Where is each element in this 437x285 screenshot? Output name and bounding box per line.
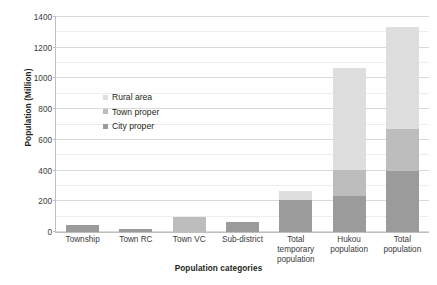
y-axis-tick-label: 0 bbox=[18, 228, 52, 237]
legend-swatch-icon bbox=[103, 109, 108, 114]
bar-segment-city-proper bbox=[226, 222, 259, 232]
chart-legend: Rural areaTown properCity proper bbox=[103, 92, 159, 131]
bar-segment-town-proper bbox=[333, 170, 366, 196]
population-bar-chart: Population (Million) 0200400600800100012… bbox=[0, 0, 437, 285]
x-axis-tick-label: Sub-district bbox=[216, 235, 269, 245]
y-axis-tick-label: 1200 bbox=[18, 43, 52, 52]
legend-swatch-icon bbox=[103, 95, 108, 100]
gridline-minor bbox=[56, 216, 429, 217]
bar-hukou-population[interactable] bbox=[333, 68, 366, 232]
gridline-minor bbox=[56, 185, 429, 186]
bar-segment-rural-area bbox=[279, 191, 312, 199]
x-axis-tick-label: Town VC bbox=[163, 235, 216, 245]
x-axis-tick-label-line: population bbox=[376, 245, 429, 255]
bar-total-temporary-population[interactable] bbox=[279, 191, 312, 232]
y-axis-tick-label: 1000 bbox=[18, 74, 52, 83]
gridline-major bbox=[56, 200, 429, 201]
bar-segment-rural-area bbox=[386, 27, 419, 129]
gridline-major bbox=[56, 47, 429, 48]
y-axis-tick-label: 1400 bbox=[18, 13, 52, 22]
y-axis-tick-label: 800 bbox=[18, 105, 52, 114]
x-axis-line bbox=[55, 232, 429, 233]
y-axis-tick bbox=[53, 77, 56, 78]
bar-segment-city-proper bbox=[333, 196, 366, 232]
x-axis-tick-label: Totalpopulation bbox=[376, 235, 429, 255]
bar-segment-town-proper bbox=[386, 129, 419, 170]
gridline-major bbox=[56, 139, 429, 140]
bar-segment-rural-area bbox=[333, 68, 366, 171]
x-axis-tick-label-line: Town RC bbox=[109, 235, 162, 245]
x-axis-tick-label: Township bbox=[56, 235, 109, 245]
legend-label: City proper bbox=[112, 121, 154, 131]
bar-segment-city-proper bbox=[119, 229, 152, 232]
legend-item-rural-area[interactable]: Rural area bbox=[103, 92, 159, 102]
x-axis-tick-label-line: Total bbox=[269, 235, 322, 245]
y-axis-tick-labels: 0200400600800100012001400 bbox=[12, 17, 52, 232]
x-axis-tick-label-line: population bbox=[322, 245, 375, 255]
x-axis-tick-label-line: Total bbox=[376, 235, 429, 245]
bar-sub-district[interactable] bbox=[226, 222, 259, 232]
x-axis-tick-label-line: Sub-district bbox=[216, 235, 269, 245]
bar-segment-city-proper bbox=[386, 171, 419, 232]
x-axis-tick-label-line: Township bbox=[56, 235, 109, 245]
legend-label: Rural area bbox=[112, 92, 152, 102]
y-axis-tick-label: 400 bbox=[18, 166, 52, 175]
gridline-major bbox=[56, 16, 429, 17]
y-axis-tick bbox=[53, 200, 56, 201]
y-axis-tick bbox=[53, 231, 56, 232]
x-axis-tick-label: Town RC bbox=[109, 235, 162, 245]
bar-segment-city-proper bbox=[66, 225, 99, 232]
x-axis-tick-label-line: temporary bbox=[269, 245, 322, 255]
y-axis-tick bbox=[53, 170, 56, 171]
y-axis-tick bbox=[53, 108, 56, 109]
x-axis-tick-label: Totaltemporarypopulation bbox=[269, 235, 322, 266]
legend-item-town-proper[interactable]: Town proper bbox=[103, 107, 159, 117]
legend-item-city-proper[interactable]: City proper bbox=[103, 121, 159, 131]
x-axis-tick-label-line: Town VC bbox=[163, 235, 216, 245]
legend-label: Town proper bbox=[112, 107, 159, 117]
y-axis-tick bbox=[53, 139, 56, 140]
legend-swatch-icon bbox=[103, 124, 108, 129]
x-axis-title: Population categories bbox=[0, 264, 437, 273]
y-axis-tick-label: 600 bbox=[18, 135, 52, 144]
gridline-major bbox=[56, 77, 429, 78]
bar-segment-city-proper bbox=[279, 200, 312, 232]
bar-township[interactable] bbox=[66, 225, 99, 232]
x-axis-tick-label: Hukoupopulation bbox=[322, 235, 375, 255]
gridline-minor bbox=[56, 31, 429, 32]
gridline-major bbox=[56, 170, 429, 171]
gridline-minor bbox=[56, 154, 429, 155]
gridline-minor bbox=[56, 62, 429, 63]
bar-total-population[interactable] bbox=[386, 27, 419, 232]
bar-town-vc[interactable] bbox=[173, 217, 206, 232]
bar-segment-town-proper bbox=[173, 217, 206, 232]
bar-town-rc[interactable] bbox=[119, 229, 152, 232]
x-axis-tick-label-line: Hukou bbox=[322, 235, 375, 245]
x-axis-tick-labels: TownshipTown RCTown VCSub-districtTotalt… bbox=[56, 235, 429, 281]
y-axis-tick bbox=[53, 16, 56, 17]
y-axis-tick-label: 200 bbox=[18, 197, 52, 206]
y-axis-tick bbox=[53, 47, 56, 48]
